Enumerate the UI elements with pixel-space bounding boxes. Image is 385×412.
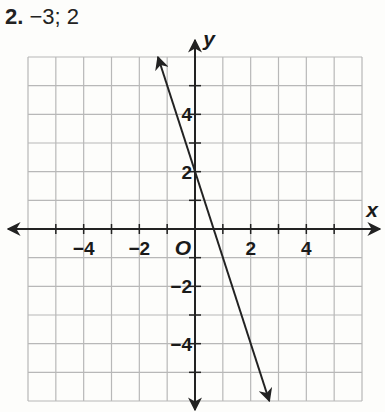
y-tick-label: 2 [181,162,192,183]
axes [8,40,380,410]
y-tick-label: 4 [181,104,192,125]
x-tick-label: −2 [128,238,150,259]
coordinate-plane: −4−22442−2−4Oxy [0,0,385,412]
y-tick-label: −4 [170,334,192,355]
y-tick-label: −2 [170,276,192,297]
y-axis-label: y [202,27,216,50]
x-axis-label: x [365,198,379,221]
x-tick-label: 4 [301,238,312,259]
x-tick-label: 2 [245,238,256,259]
origin-label: O [175,236,191,259]
tick-labels: −4−22442−2−4Oxy [73,27,379,355]
x-tick-label: −4 [73,238,95,259]
